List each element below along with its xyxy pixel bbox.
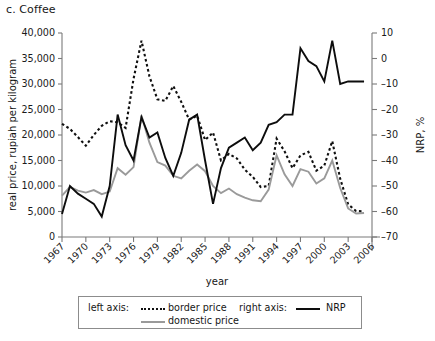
- plot-area: 05,00010,00015,00020,00025,00030,00035,0…: [0, 0, 435, 341]
- series-line-nrp: [62, 41, 364, 217]
- x-ticklabel: 2003: [328, 241, 353, 266]
- y-ticklabel-right: –10: [381, 78, 398, 89]
- y-ticklabel-right: –40: [381, 155, 398, 166]
- y-ticklabel-right: –60: [381, 206, 398, 217]
- x-ticklabel: 1967: [41, 241, 66, 266]
- axis-labels: 05,00010,00015,00020,00025,00030,00035,0…: [7, 27, 426, 287]
- x-ticklabel: 1970: [65, 241, 90, 266]
- y-ticklabel-right: –50: [381, 180, 398, 191]
- legend-item-border-price: border price: [168, 302, 227, 313]
- y-ticklabel-left: 20,000: [21, 129, 55, 140]
- y-ticklabel-left: 15,000: [21, 155, 55, 166]
- legend-swatch-domestic-price: [141, 321, 165, 323]
- y-ticklabel-right: 0: [381, 53, 387, 64]
- x-ticklabel: 2000: [304, 241, 329, 266]
- legend-left-axis-label: left axis:: [88, 302, 129, 313]
- y-axis-title-left: real price, rupiah per kilogram: [7, 59, 18, 211]
- y-ticklabel-right: 10: [381, 27, 393, 38]
- y-ticklabel-left: 5,000: [28, 206, 55, 217]
- y-ticklabel-left: 35,000: [21, 53, 55, 64]
- y-axis-title-right: NRP, %: [415, 117, 426, 153]
- x-ticklabel: 1988: [208, 241, 233, 266]
- y-ticklabel-left: 30,000: [21, 78, 55, 89]
- legend: left axis: border price domestic price r…: [78, 296, 362, 329]
- x-ticklabel: 1979: [137, 241, 162, 266]
- y-ticklabel-right: –30: [381, 129, 398, 140]
- legend-item-nrp: NRP: [326, 302, 346, 313]
- x-ticklabel: 1994: [256, 241, 281, 266]
- y-ticklabel-left: 0: [49, 231, 55, 242]
- y-ticklabel-right: –70: [381, 231, 398, 242]
- x-ticklabel: 1985: [184, 241, 209, 266]
- legend-swatch-nrp: [296, 308, 320, 310]
- x-ticklabel: 2006: [351, 241, 376, 266]
- x-ticklabel: 1973: [89, 241, 114, 266]
- x-ticklabel: 1997: [280, 241, 305, 266]
- x-ticklabel: 1991: [232, 241, 257, 266]
- y-ticklabel-left: 25,000: [21, 104, 55, 115]
- y-ticklabel-right: –20: [381, 104, 398, 115]
- legend-item-domestic-price: domestic price: [168, 315, 239, 326]
- y-ticklabel-left: 10,000: [21, 180, 55, 191]
- x-axis-title: year: [206, 276, 229, 287]
- y-ticklabel-left: 40,000: [21, 27, 55, 38]
- chart-svg: 05,00010,00015,00020,00025,00030,00035,0…: [0, 0, 435, 341]
- chart-figure: c. Coffee 05,00010,00015,00020,00025,000…: [0, 0, 435, 341]
- x-ticklabel: 1982: [161, 241, 186, 266]
- x-ticklabel: 1976: [113, 241, 138, 266]
- legend-swatch-border-price: [141, 308, 165, 310]
- legend-right-axis-label: right axis:: [239, 302, 287, 313]
- data-series: [62, 41, 364, 217]
